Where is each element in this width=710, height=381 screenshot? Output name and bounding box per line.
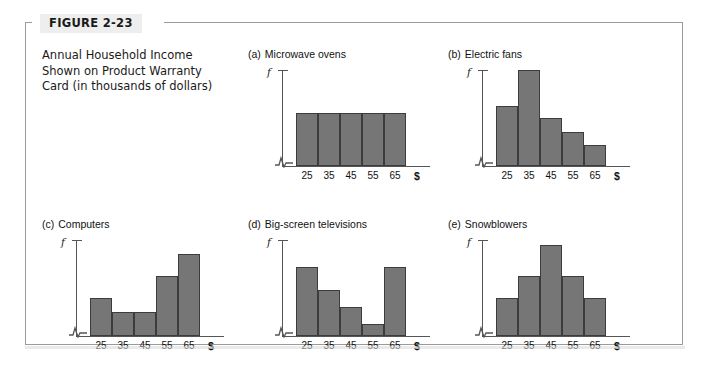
x-tick-labels-b: 2535455565 <box>496 170 606 184</box>
bar <box>318 113 340 166</box>
x-tick-label: 65 <box>384 170 406 181</box>
x-axis-d <box>282 336 430 337</box>
x-axis-c <box>76 336 224 337</box>
x-axis-b <box>482 166 630 167</box>
y-axis-label-a: f <box>267 66 271 78</box>
plot-area-e: f2535455565$ <box>456 236 638 360</box>
figure-caption: Annual Household IncomeShown on Product … <box>42 48 247 95</box>
caption-line: Annual Household Income <box>42 48 247 64</box>
x-axis-e <box>482 336 630 337</box>
bar <box>540 118 562 166</box>
plot-area-a: f2535455565$ <box>256 66 438 190</box>
bar <box>90 298 112 336</box>
panel-title-c: (c)Computers <box>42 218 110 230</box>
y-axis-a <box>282 70 283 166</box>
bar <box>318 290 340 336</box>
caption-line: Card (in thousands of dollars) <box>42 79 247 95</box>
bar <box>584 298 606 336</box>
page-shadow <box>25 346 685 349</box>
panel-title-d: (d)Big-screen televisions <box>248 218 367 230</box>
y-axis-c <box>76 240 77 336</box>
bars-e <box>496 240 606 336</box>
x-tick-labels-a: 2535455565 <box>296 170 406 184</box>
caption-line: Shown on Product Warranty <box>42 64 247 80</box>
bar <box>112 312 134 336</box>
panel-marker-d: (d) <box>248 218 261 230</box>
panel-title-text-a: Microwave ovens <box>265 48 346 60</box>
x-tick-label: 65 <box>584 170 606 181</box>
x-tick-label: 35 <box>318 170 340 181</box>
histogram-panel-c: (c)Computersf2535455565$ <box>42 218 242 364</box>
x-tick-label: 35 <box>518 170 540 181</box>
x-axis-a <box>282 166 430 167</box>
plot-area-b: f2535455565$ <box>456 66 638 190</box>
x-tick-label: 55 <box>362 170 384 181</box>
panel-marker-b: (b) <box>448 48 461 60</box>
x-axis-unit-a: $ <box>414 170 420 182</box>
bar <box>156 276 178 336</box>
panel-marker-c: (c) <box>42 218 54 230</box>
bar <box>584 145 606 166</box>
figure-number-label: FIGURE 2-23 <box>40 14 142 33</box>
plot-area-d: f2535455565$ <box>256 236 438 360</box>
bars-c <box>90 240 200 336</box>
y-axis-label-b: f <box>467 66 471 78</box>
bar <box>362 113 384 166</box>
panel-marker-a: (a) <box>248 48 261 60</box>
bars-d <box>296 240 406 336</box>
panel-title-text-e: Snowblowers <box>465 218 527 230</box>
panel-marker-e: (e) <box>448 218 461 230</box>
bar <box>340 307 362 336</box>
bar <box>540 245 562 336</box>
bar <box>296 113 318 166</box>
histogram-panel-b: (b)Electric fansf2535455565$ <box>448 48 648 194</box>
y-axis-label-d: f <box>267 236 271 248</box>
bar <box>496 106 518 166</box>
bar <box>296 267 318 336</box>
y-axis-e <box>482 240 483 336</box>
bar <box>178 254 200 336</box>
bar <box>496 298 518 336</box>
plot-area-c: f2535455565$ <box>50 236 232 360</box>
panel-title-text-b: Electric fans <box>465 48 522 60</box>
y-axis-label-c: f <box>61 236 65 248</box>
y-axis-label-e: f <box>467 236 471 248</box>
bar <box>562 276 584 336</box>
bar <box>384 267 406 336</box>
bars-a <box>296 70 406 166</box>
histogram-panel-a: (a)Microwave ovensf2535455565$ <box>248 48 448 194</box>
histogram-panel-e: (e)Snowblowersf2535455565$ <box>448 218 648 364</box>
panel-title-a: (a)Microwave ovens <box>248 48 346 60</box>
bar <box>134 312 156 336</box>
panel-title-text-c: Computers <box>58 218 109 230</box>
bar <box>518 276 540 336</box>
bar <box>384 113 406 166</box>
bar <box>340 113 362 166</box>
panel-title-text-d: Big-screen televisions <box>265 218 367 230</box>
x-tick-label: 25 <box>496 170 518 181</box>
bar <box>362 324 384 336</box>
panel-title-e: (e)Snowblowers <box>448 218 527 230</box>
bar <box>562 132 584 166</box>
x-tick-label: 45 <box>540 170 562 181</box>
histogram-panel-d: (d)Big-screen televisionsf2535455565$ <box>248 218 448 364</box>
bars-b <box>496 70 606 166</box>
bar <box>518 70 540 166</box>
y-axis-d <box>282 240 283 336</box>
x-axis-unit-b: $ <box>614 170 620 182</box>
y-axis-b <box>482 70 483 166</box>
panel-title-b: (b)Electric fans <box>448 48 522 60</box>
x-tick-label: 25 <box>296 170 318 181</box>
x-tick-label: 45 <box>340 170 362 181</box>
x-tick-label: 55 <box>562 170 584 181</box>
